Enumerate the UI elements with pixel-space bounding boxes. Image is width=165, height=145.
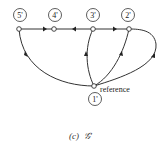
reference-label: reference [100,85,130,94]
arrow-left-icon [72,27,76,32]
edges [19,29,156,86]
node-3 [91,27,96,32]
arrow-right-icon [113,27,117,32]
edge-1-to-2-outer [94,29,156,86]
edge-1-to-2 [94,29,129,86]
edge-1-to-3 [87,29,94,86]
arrow-right-icon [43,27,47,32]
node-labels: 5' 4' 3' 2' 1' reference [14,9,135,106]
arrow-up-icon [24,51,28,57]
graph-diagram: 5' 4' 3' 2' 1' reference (c) 𝒢' [0,0,165,145]
node-4 [52,27,57,32]
node-label-5: 5' [17,11,23,20]
caption-prefix: (c) [69,131,79,141]
node-label-4: 4' [52,11,58,20]
edge-1-to-5 [19,29,94,86]
node-label-1: 1' [92,95,98,104]
node-label-2: 2' [125,11,131,20]
arrowheads [24,27,155,59]
caption-symbol: 𝒢' [84,131,93,141]
node-2 [127,27,132,32]
node-5 [17,27,22,32]
node-1 [92,84,97,89]
node-label-3: 3' [90,11,96,20]
